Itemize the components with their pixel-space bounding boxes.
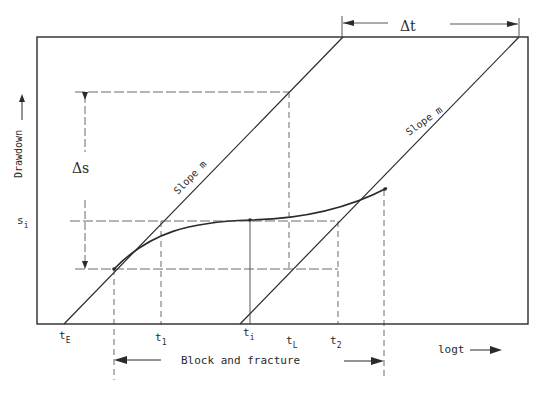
y-axis-label: Drawdown <box>13 130 24 178</box>
delta-s-arrowhead-top <box>82 92 88 100</box>
delta-s-arrowhead-bottom <box>82 261 88 269</box>
time-label-tL: tL <box>286 334 298 350</box>
y-axis-arrowhead <box>19 94 25 102</box>
slope-line-right <box>240 37 519 324</box>
block-and-fracture-label: Block and fracture <box>181 354 300 367</box>
delta-t-label: Δt <box>400 18 416 34</box>
delta-s-label: Δs <box>72 160 89 176</box>
point-start <box>112 267 116 271</box>
drawdown-curve <box>114 188 387 269</box>
point-end <box>383 187 387 191</box>
time-label-tE: tE <box>59 329 71 345</box>
time-label-t2: t2 <box>330 334 342 350</box>
block-arrowhead-right <box>371 357 384 365</box>
time-label-ti: ti <box>243 326 255 342</box>
slope-line-left <box>64 37 343 324</box>
si-label: si <box>17 214 29 230</box>
x-axis-label: logt <box>438 343 465 356</box>
x-axis-arrowhead <box>490 346 502 354</box>
time-label-t1: t1 <box>155 331 167 347</box>
delta-t-arrowhead-right <box>507 21 518 27</box>
point-inflection <box>248 218 252 222</box>
delta-t-arrowhead-left <box>343 20 354 26</box>
slope-label-left: Slope m <box>172 158 209 196</box>
drawdown-log-time-diagram: Δs Δt Drawdown si Slope m Slope m tE t1 … <box>0 0 543 393</box>
